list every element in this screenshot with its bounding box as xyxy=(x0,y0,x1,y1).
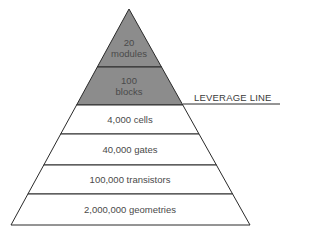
label-cells: 4,000 cells xyxy=(80,114,180,125)
label-modules: 20 modules xyxy=(104,37,154,59)
label-geometries: 2,000,000 geometries xyxy=(65,204,195,215)
label-transistors: 100,000 transistors xyxy=(70,174,190,185)
leverage-line-label: LEVERAGE LINE xyxy=(194,92,272,103)
label-gates: 40,000 gates xyxy=(80,144,180,155)
label-blocks: 100 blocks xyxy=(104,75,154,97)
